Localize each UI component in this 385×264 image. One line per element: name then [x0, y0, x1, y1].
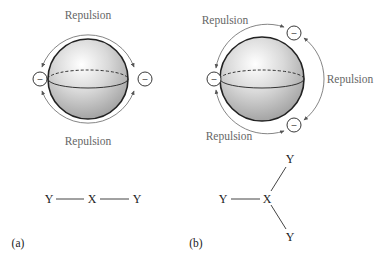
repulsion-label: Repulsion — [206, 130, 253, 143]
svg-text:–: – — [291, 120, 296, 130]
sphere-b — [220, 37, 304, 121]
central-atom: X — [88, 192, 97, 206]
electron-pair: – — [138, 72, 152, 86]
bond — [271, 167, 286, 191]
ligand-atom: Y — [286, 152, 295, 166]
svg-text:–: – — [291, 28, 296, 38]
electron-pair: – — [287, 118, 301, 132]
bond — [271, 205, 286, 229]
repulsion-label: Repulsion — [65, 135, 112, 148]
vsepr-diagram: – – Repulsion Repulsion Y X Y (a) — [0, 0, 385, 264]
ligand-atom: Y — [45, 192, 54, 206]
central-atom: X — [263, 192, 272, 206]
molecule-b: Y X Y Y — [219, 152, 295, 244]
svg-text:–: – — [142, 74, 147, 84]
svg-text:–: – — [211, 74, 216, 84]
repulsion-arrow-right — [304, 38, 324, 120]
electron-pair: – — [33, 72, 47, 86]
panel-a: – – Repulsion Repulsion Y X Y (a) — [12, 9, 152, 250]
sphere-a — [48, 39, 128, 119]
ligand-atom: Y — [219, 192, 228, 206]
repulsion-label: Repulsion — [202, 14, 249, 27]
panel-label: (a) — [12, 237, 25, 250]
panel-label: (b) — [189, 237, 203, 250]
ligand-atom: Y — [286, 230, 295, 244]
molecule-a: Y X Y — [45, 192, 142, 206]
panel-b: – – – Repulsion Repulsion Repulsion Y X … — [189, 14, 373, 250]
electron-pair: – — [287, 26, 301, 40]
electron-pair: – — [207, 72, 221, 86]
repulsion-label: Repulsion — [65, 9, 112, 22]
svg-text:–: – — [37, 74, 42, 84]
ligand-atom: Y — [133, 192, 142, 206]
repulsion-label: Repulsion — [327, 73, 374, 86]
